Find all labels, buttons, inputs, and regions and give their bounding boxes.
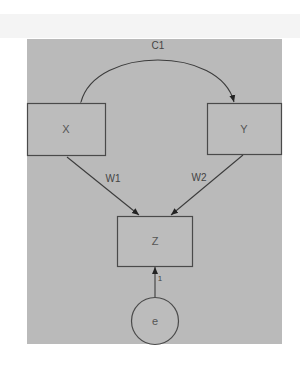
edge-w1-arrow (67, 157, 139, 215)
edge-label-c1: C1 (152, 40, 165, 51)
edge-label-error: 1 (158, 274, 163, 283)
node-e[interactable]: e (132, 298, 179, 345)
node-y[interactable]: Y (208, 104, 282, 155)
node-z[interactable]: Z (118, 217, 193, 267)
node-x[interactable]: X (28, 104, 106, 156)
edge-label-w2: W2 (192, 172, 207, 183)
path-diagram: C1 W1 W2 1 X Y Z e (0, 0, 305, 369)
edge-c1-arc (81, 60, 234, 102)
node-x-label: X (62, 123, 70, 135)
node-z-label: Z (152, 235, 159, 247)
edge-w2-arrow (171, 155, 243, 215)
node-e-label: e (152, 315, 158, 327)
edge-label-w1: W1 (106, 173, 121, 184)
node-y-label: Y (240, 123, 248, 135)
